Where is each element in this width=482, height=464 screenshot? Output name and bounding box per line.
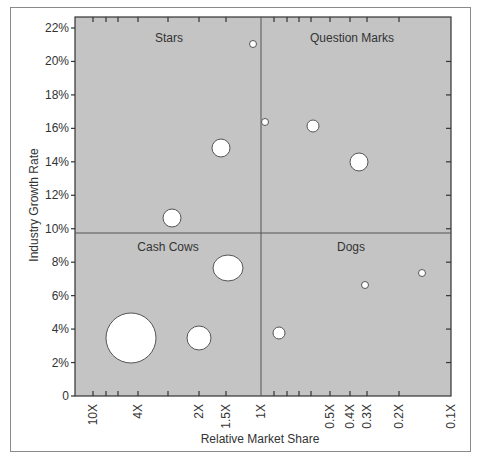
x-tick-label: 0.5X <box>323 404 337 429</box>
bcg-matrix-chart: 02%4%6%8%10%12%14%16%18%20%22% 10X4X2X1.… <box>0 0 482 464</box>
x-tick-label: 1.5X <box>219 404 233 429</box>
bubble <box>350 153 368 171</box>
bubble <box>362 282 369 289</box>
x-tick-label: 0.1X <box>444 404 458 429</box>
y-tick-label: 18% <box>45 88 69 102</box>
quadrant-label-question-marks: Question Marks <box>310 31 394 45</box>
x-tick-label: 0.3X <box>360 404 374 429</box>
bubble <box>187 326 211 350</box>
y-tick-label: 10% <box>45 222 69 236</box>
y-axis-title: Industry Growth Rate <box>27 148 41 262</box>
bubble <box>212 139 230 157</box>
y-tick-label: 20% <box>45 54 69 68</box>
x-tick-label: 2X <box>192 404 206 419</box>
y-tick-label: 4% <box>52 322 70 336</box>
bubble <box>106 313 156 363</box>
y-tick-label: 8% <box>52 255 70 269</box>
y-tick-label: 22% <box>45 21 69 35</box>
quadrant-label-dogs: Dogs <box>337 240 365 254</box>
quadrant-label-stars: Stars <box>155 31 183 45</box>
bubble <box>273 327 285 339</box>
x-tick-label: 1X <box>254 404 268 419</box>
x-axis: 10X4X2X1.5X1X0.5X0.4X0.3X0.2X0.1X <box>86 391 458 429</box>
y-axis: 02%4%6%8%10%12%14%16%18%20%22% <box>45 21 75 403</box>
bubble <box>419 270 426 277</box>
x-tick-label: 10X <box>86 404 100 425</box>
bubble <box>250 41 257 48</box>
x-axis-title: Relative Market Share <box>201 432 320 446</box>
x-tick-label: 0.4X <box>343 404 357 429</box>
y-tick-label: 6% <box>52 289 70 303</box>
y-tick-label: 2% <box>52 356 70 370</box>
y-tick-label: 14% <box>45 155 69 169</box>
x-tick-label: 4X <box>131 404 145 419</box>
y-tick-label: 0 <box>62 389 69 403</box>
bubble <box>163 209 181 227</box>
y-tick-label: 12% <box>45 188 69 202</box>
bubble <box>213 255 243 281</box>
quadrant-label-cash-cows: Cash Cows <box>137 240 198 254</box>
y-tick-label: 16% <box>45 121 69 135</box>
x-tick-label: 0.2X <box>392 404 406 429</box>
bubble <box>262 119 269 126</box>
bubble <box>307 120 319 132</box>
